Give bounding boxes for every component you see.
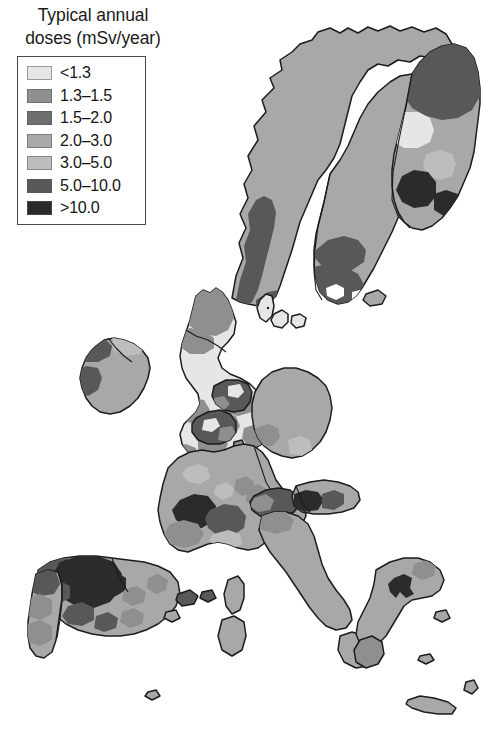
legend-label-gt-10-0: >10.0 [60, 199, 100, 217]
legend-swatch-3-0-5-0 [27, 156, 52, 170]
country-ireland [73, 332, 150, 414]
legend-box: <1.3 1.3–1.5 1.5–2.0 2.0–3.0 3.0–5.0 5.0… [17, 56, 146, 225]
country-finland [389, 42, 482, 230]
legend-title-line1: Typical annual [0, 4, 186, 27]
legend-item: 1.3–1.5 [18, 85, 145, 108]
legend-swatch-1-3-1-5 [27, 89, 52, 103]
country-denmark [257, 294, 306, 328]
radon-dose-map-figure: Typical annual doses (mSv/year) <1.3 1.3… [0, 0, 501, 729]
legend-title-line2: doses (mSv/year) [0, 27, 186, 50]
country-germany [252, 368, 332, 458]
country-greece [354, 558, 478, 714]
legend-label-1-5-2-0: 1.5–2.0 [60, 109, 112, 127]
legend-swatch-gt-10-0 [27, 201, 52, 215]
country-austria [292, 480, 360, 514]
legend-swatch-1-5-2-0 [27, 111, 52, 125]
legend-swatch-5-0-10-0 [27, 179, 52, 193]
legend-swatch-lt-1-3 [27, 66, 52, 80]
legend-swatch-2-0-3-0 [27, 134, 52, 148]
legend-label-1-3-1-5: 1.3–1.5 [60, 87, 112, 105]
legend-item: 1.5–2.0 [18, 107, 145, 130]
legend-item: 5.0–10.0 [18, 175, 145, 198]
legend-label-5-0-10-0: 5.0–10.0 [60, 177, 121, 195]
country-portugal [28, 568, 62, 658]
legend-label-3-0-5-0: 3.0–5.0 [60, 154, 112, 172]
legend-item: >10.0 [18, 197, 145, 220]
legend-item: 3.0–5.0 [18, 152, 145, 175]
legend-item: <1.3 [18, 62, 145, 85]
legend-item: 2.0–3.0 [18, 130, 145, 153]
legend-title: Typical annual doses (mSv/year) [0, 4, 186, 50]
legend-label-2-0-3-0: 2.0–3.0 [60, 132, 112, 150]
legend-label-lt-1-3: <1.3 [60, 64, 91, 82]
